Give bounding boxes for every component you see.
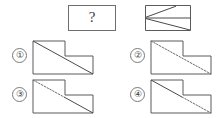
option-1-figure xyxy=(32,40,94,75)
reference-figure xyxy=(145,5,191,31)
option-4-figure xyxy=(150,79,212,114)
option-2-number: ② xyxy=(130,48,145,63)
option-3-figure xyxy=(32,79,94,114)
option-2-figure xyxy=(150,40,212,75)
puzzle-canvas: ? ① ② ③ xyxy=(0,0,218,118)
option-1-number: ① xyxy=(12,48,27,63)
question-mark-label: ? xyxy=(69,10,115,25)
option-3-number: ③ xyxy=(12,87,27,102)
question-box[interactable]: ? xyxy=(68,5,116,31)
option-4-number: ④ xyxy=(130,87,145,102)
